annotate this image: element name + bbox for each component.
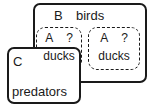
box-b-label: B bbox=[54, 9, 63, 22]
dashed-right-label: A bbox=[100, 32, 108, 44]
dashed-left-label: A bbox=[45, 32, 53, 44]
dashed-left-name-text: ducks bbox=[43, 49, 74, 63]
dashed-left-top-row: A ? bbox=[36, 32, 82, 44]
dashed-left-name: ducks bbox=[36, 50, 82, 62]
box-c-label: C bbox=[13, 55, 22, 68]
dashed-left-question: ? bbox=[66, 32, 73, 44]
diagram-canvas: B birds C predators A ? ducks A ? ducks bbox=[0, 0, 156, 109]
dashed-right-name-text: ducks bbox=[98, 49, 129, 63]
dashed-right-question: ? bbox=[121, 32, 128, 44]
dashed-right-top-row: A ? bbox=[88, 32, 140, 44]
box-c-name: predators bbox=[12, 85, 67, 98]
box-b-name: birds bbox=[76, 9, 104, 22]
dashed-right-name: ducks bbox=[88, 50, 140, 62]
